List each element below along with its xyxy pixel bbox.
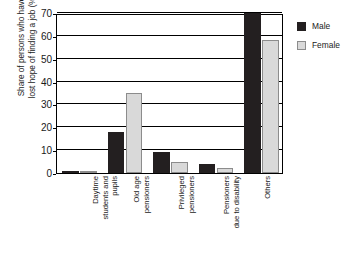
plot-area [56,14,283,174]
bar-male-0 [62,171,79,173]
y-axis-tick-mark [53,174,56,175]
x-axis-tick-label: Old agepensioners [132,176,151,256]
legend-item-male[interactable]: Male [297,21,354,31]
x-axis-tick-label-line: Pensioners [222,176,232,256]
legend-swatch-icon [297,41,306,50]
x-axis-tick-label-line: pensioners [187,176,197,256]
x-axis-tick-label: Daytimestudents andpupils [91,176,120,256]
x-axis-tick-label: Others [263,176,273,256]
bar-male-4 [244,13,261,173]
x-axis-tick-label-line: students and [100,176,110,256]
x-axis-tick-label-line: pupils [110,176,120,256]
y-axis-label-line-1: Share of persons who have [17,0,28,122]
legend-item-label: Male [312,22,330,31]
x-axis-tick-label-line: Daytime [91,176,101,256]
bar-chart-figure: 010203040506070 Share of persons who hav… [0,0,354,259]
bar-female-4 [262,40,279,173]
legend: MaleFemale [297,21,354,59]
bar-female-0 [80,171,97,173]
x-axis-tick-label-line: Privileged [177,176,187,256]
x-axis-tick-label-line: Old age [132,176,142,256]
x-axis-labels: Daytimestudents andpupilsOld agepensione… [56,176,283,258]
x-axis-tick-label: Privilegedpensioners [177,176,196,256]
y-axis-tick-label: 0 [8,169,52,179]
bar-female-1 [126,93,143,173]
x-axis-tick-label-line: due to disability [232,176,242,256]
y-axis-tick-label: 20 [8,123,52,133]
legend-item-label: Female [312,41,340,50]
bar-female-3 [217,168,234,173]
y-axis-tick-label: 10 [8,146,52,156]
bar-male-1 [108,132,125,173]
bar-male-3 [199,164,216,173]
y-axis-label: Share of persons who have lost hope of f… [17,0,38,122]
y-axis-label-line-2: lost hope of finding a job (%) [27,0,38,122]
x-axis-tick-label: Pensionersdue to disability [222,176,241,256]
bar-female-2 [171,162,188,173]
x-axis-tick-label-line: Others [263,176,273,256]
legend-swatch-icon [297,22,306,31]
bar-male-2 [153,152,170,173]
x-axis-tick-label-line: pensioners [141,176,151,256]
legend-item-female[interactable]: Female [297,40,354,50]
